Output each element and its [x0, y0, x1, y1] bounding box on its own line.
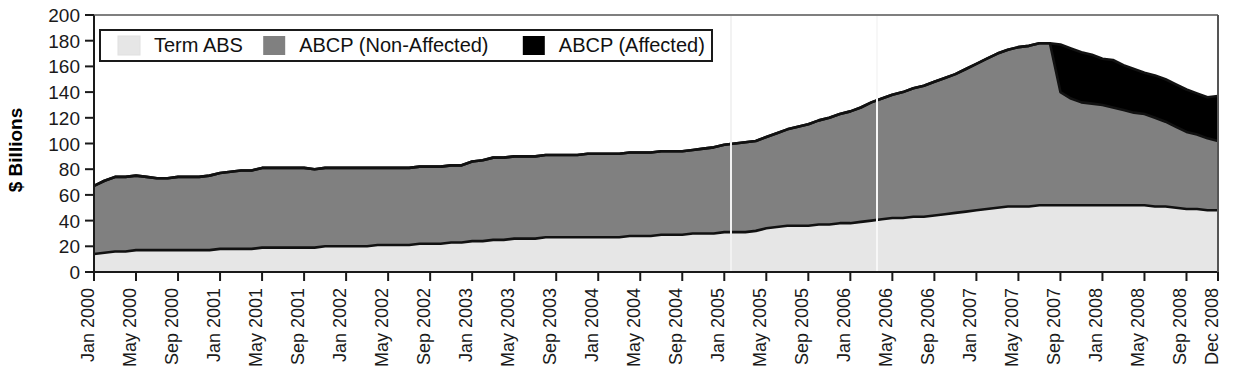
x-tick-label: Sep 2007 [1044, 288, 1064, 365]
x-tick-label: Sep 2004 [666, 288, 686, 365]
x-tick-label: Sep 2003 [540, 288, 560, 365]
x-tick-label: Sep 2001 [288, 288, 308, 365]
legend-label-term-abs: Term ABS [154, 34, 243, 56]
y-tick-label: 0 [69, 262, 80, 283]
y-tick-label: 80 [59, 159, 80, 180]
legend-swatch-term-abs [118, 36, 140, 55]
x-tick-label: May 2001 [246, 288, 266, 367]
y-tick-label: 160 [48, 56, 80, 77]
legend-swatch-abcp-non-affected [263, 36, 285, 55]
x-tick-label: Sep 2008 [1170, 288, 1190, 365]
x-tick-label: May 2006 [876, 288, 896, 367]
x-tick-label: Sep 2000 [162, 288, 182, 365]
x-tick-label: May 2008 [1128, 288, 1148, 367]
y-tick-label: 20 [59, 236, 80, 257]
legend-label-abcp-non-affected: ABCP (Non-Affected) [299, 34, 488, 56]
y-axis-title: $ Billions [5, 108, 26, 192]
x-tick-label: Sep 2006 [918, 288, 938, 365]
x-tick-label: Jan 2002 [330, 288, 350, 362]
stacked-area-chart: 020406080100120140160180200 Jan 2000May … [0, 0, 1239, 390]
legend-label-abcp-affected: ABCP (Affected) [559, 34, 705, 56]
legend-swatch-abcp-affected [523, 36, 545, 55]
x-tick-label: Jan 2003 [456, 288, 476, 362]
y-tick-label: 120 [48, 108, 80, 129]
y-tick-label: 60 [59, 185, 80, 206]
x-tick-label: May 2004 [624, 288, 644, 367]
x-tick-label: Jan 2007 [960, 288, 980, 362]
chart-legend: Term ABSABCP (Non-Affected)ABCP (Affecte… [100, 30, 712, 61]
y-tick-label: 180 [48, 31, 80, 52]
x-tick-label: Jan 2004 [582, 288, 602, 362]
x-tick-label: Sep 2005 [792, 288, 812, 365]
y-axis: 020406080100120140160180200 [48, 5, 94, 283]
x-tick-label: Jan 2006 [834, 288, 854, 362]
legend-items: Term ABSABCP (Non-Affected)ABCP (Affecte… [118, 34, 705, 56]
x-tick-label: May 2002 [372, 288, 392, 367]
x-tick-label: May 2007 [1002, 288, 1022, 367]
y-tick-label: 40 [59, 211, 80, 232]
x-tick-label: Jan 2005 [708, 288, 728, 362]
y-tick-label: 100 [48, 134, 80, 155]
y-tick-label: 200 [48, 5, 80, 26]
x-tick-label: May 2005 [750, 288, 770, 367]
x-tick-label: May 2000 [120, 288, 140, 367]
chart-canvas: 020406080100120140160180200 Jan 2000May … [0, 0, 1239, 390]
x-axis: Jan 2000May 2000Sep 2000Jan 2001May 2001… [78, 272, 1222, 367]
x-tick-label: Sep 2002 [414, 288, 434, 365]
y-tick-label: 140 [48, 82, 80, 103]
x-tick-label: Dec 2008 [1202, 288, 1222, 365]
x-tick-label: Jan 2008 [1086, 288, 1106, 362]
x-tick-label: Jan 2000 [78, 288, 98, 362]
x-tick-label: May 2003 [498, 288, 518, 367]
x-tick-label: Jan 2001 [204, 288, 224, 362]
